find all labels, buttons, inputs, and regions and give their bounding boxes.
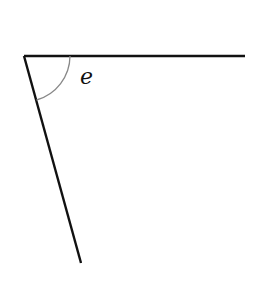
angle-label: e [80,64,93,89]
angle-diagram: e [0,0,254,283]
angle-arc [37,56,71,100]
lower-ray [24,56,81,263]
